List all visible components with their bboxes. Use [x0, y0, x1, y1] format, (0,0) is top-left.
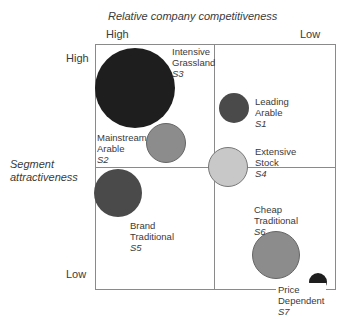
label-s7-line1: Price [278, 284, 324, 295]
label-s4-code: S4 [255, 168, 296, 179]
label-s1-code: S1 [255, 118, 289, 129]
bubble-s5 [94, 169, 142, 217]
label-s5-line1: Brand [130, 220, 174, 231]
label-s6-code: S6 [254, 226, 298, 237]
label-s2: Mainstream Arable S2 [97, 132, 147, 165]
label-s1: Leading Arable S1 [255, 96, 289, 129]
label-s7-code: S7 [278, 306, 324, 317]
label-s3-code: S3 [172, 68, 215, 79]
label-s5-code: S5 [130, 242, 174, 253]
y-axis-low-label: Low [66, 268, 86, 280]
bubble-s6 [252, 231, 300, 279]
y-axis-title: Segment attractiveness [10, 158, 78, 184]
bubble-s2 [146, 123, 186, 163]
label-s6-line1: Cheap [254, 204, 298, 215]
label-s3: Intensive Grassland S3 [172, 46, 215, 79]
label-s2-line1: Mainstream [97, 132, 147, 143]
label-s4-line2: Stock [255, 157, 296, 168]
label-s7-line2: Dependent [278, 295, 324, 306]
bubble-s3 [95, 48, 175, 128]
label-s4-line1: Extensive [255, 146, 296, 157]
label-s1-line2: Arable [255, 107, 289, 118]
y-axis-title-line2: attractiveness [10, 171, 78, 184]
label-s5: Brand Traditional S5 [130, 220, 174, 253]
label-s1-line1: Leading [255, 96, 289, 107]
label-s2-line2: Arable [97, 143, 147, 154]
bubble-s4 [208, 147, 248, 187]
label-s4: Extensive Stock S4 [255, 146, 296, 179]
bubble-s1 [219, 93, 249, 123]
label-s6: Cheap Traditional S6 [254, 204, 298, 237]
x-axis-low-label: Low [300, 28, 320, 40]
y-axis-high-label: High [66, 52, 89, 64]
x-axis-high-label: High [106, 28, 129, 40]
label-s6-line2: Traditional [254, 215, 298, 226]
label-s3-line2: Grassland [172, 57, 215, 68]
label-s5-line2: Traditional [130, 231, 174, 242]
label-s3-line1: Intensive [172, 46, 215, 57]
label-s7: Price Dependent S7 [276, 283, 326, 317]
label-s2-code: S2 [97, 154, 147, 165]
x-axis-title: Relative company competitiveness [108, 10, 277, 22]
y-axis-title-line1: Segment [10, 158, 78, 171]
